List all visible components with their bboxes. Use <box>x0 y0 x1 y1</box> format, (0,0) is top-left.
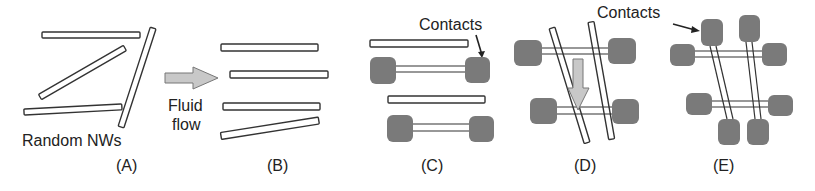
nanowire <box>118 27 156 128</box>
contact-pad <box>608 38 636 64</box>
panel-a: Random NWs (A) <box>22 27 156 174</box>
contact-pad <box>739 15 760 42</box>
panel-label-a: (A) <box>116 157 137 174</box>
panel-d: (D) <box>514 21 639 174</box>
contact-pad <box>370 57 396 84</box>
nanowire <box>223 103 320 110</box>
contact-pad <box>612 99 639 124</box>
caption-flow: flow <box>172 116 201 133</box>
panel-c: Contacts (C) <box>370 16 494 174</box>
fluid-flow-arrow-icon <box>165 67 218 89</box>
nanowire <box>24 104 122 115</box>
contact-pad <box>465 57 490 83</box>
panel-label-b: (B) <box>267 157 288 174</box>
contact-pad <box>762 43 787 66</box>
contact-pad <box>514 40 542 66</box>
contact-pad <box>469 116 494 142</box>
caption-contacts-e: Contacts <box>597 4 660 21</box>
caption-contacts-c: Contacts <box>419 16 482 33</box>
panel-b: Fluid flow (B) <box>165 44 328 174</box>
contact-pad <box>768 95 793 116</box>
contact-pad <box>718 119 740 145</box>
nanowire <box>370 40 468 47</box>
contact-pad <box>747 119 769 145</box>
contact-pad <box>701 19 723 46</box>
nanowire-assembly-diagram: .nw { fill: #ffffff; stroke: #333333; st… <box>0 0 815 191</box>
panel-label-e: (E) <box>713 157 734 174</box>
nanowire <box>220 117 319 139</box>
contact-pad <box>530 98 557 124</box>
contact-pad <box>670 44 695 66</box>
contact-pad <box>686 93 712 115</box>
panel-e: Contacts (E) <box>597 4 793 174</box>
panel-label-d: (D) <box>574 157 596 174</box>
nanowire <box>221 44 318 51</box>
nanowire <box>230 71 328 78</box>
nanowire <box>39 45 127 99</box>
nanowire <box>42 32 140 38</box>
panel-label-c: (C) <box>421 157 443 174</box>
nanowire <box>549 27 590 144</box>
caption-fluid: Fluid <box>168 97 203 114</box>
caption-random-nws: Random NWs <box>22 132 122 149</box>
contact-pad <box>387 115 413 142</box>
nanowire <box>388 96 485 103</box>
